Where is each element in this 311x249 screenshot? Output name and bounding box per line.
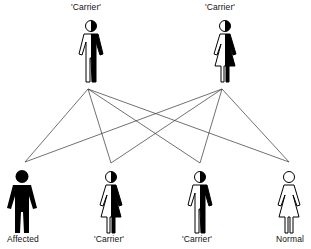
child-normal-female-icon [278,172,300,234]
child-affected-male-icon [7,170,37,233]
line-father-child3 [88,89,200,163]
line-father-child2 [88,89,111,163]
child-carrier-female-icon [100,172,122,234]
line-father-child1 [25,89,88,162]
line-mother-child4 [222,89,289,162]
inheritance-diagram: 'Carrier' 'Carrier' Affected 'Carrier' '… [0,0,311,249]
child1-label: Affected [7,234,39,244]
child3-label: 'Carrier' [182,234,212,244]
diagram-canvas [0,0,311,249]
father-carrier-male-icon [79,21,103,83]
child2-label: 'Carrier' [94,234,124,244]
mother-carrier-female-icon [214,21,236,83]
child4-label: Normal [276,234,304,244]
mother-label: 'Carrier' [205,2,235,12]
line-mother-child2 [111,89,222,163]
line-mother-child3 [200,89,222,163]
connection-lines [25,89,289,163]
father-label: 'Carrier' [71,2,101,12]
child-carrier-male-icon [188,172,212,234]
line-mother-child1 [25,89,222,162]
line-father-child4 [88,89,289,162]
